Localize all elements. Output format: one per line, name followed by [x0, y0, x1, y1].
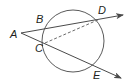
ray-a-e — [21, 33, 121, 78]
point-label-c: C — [35, 42, 43, 54]
circle — [42, 10, 104, 72]
point-label-a: A — [9, 28, 17, 40]
chord-c-d — [45, 19, 100, 43]
diagram-svg: A B C D E — [0, 0, 130, 84]
point-label-d: D — [98, 4, 106, 16]
point-label-b: B — [36, 13, 43, 25]
secant-diagram: A B C D E — [0, 0, 130, 84]
point-label-e: E — [93, 69, 101, 81]
